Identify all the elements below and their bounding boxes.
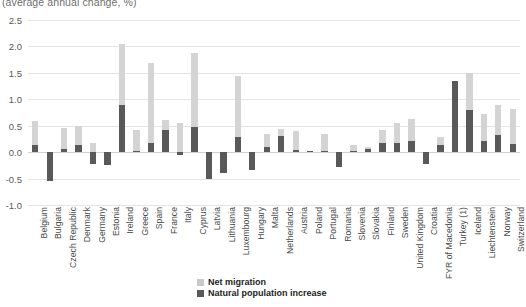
x-axis-tick-label: Ireland	[125, 207, 135, 234]
bar-group	[220, 20, 226, 205]
bar-group	[249, 20, 255, 205]
bar-segment-net-migration	[321, 134, 327, 151]
bar-group	[423, 20, 429, 205]
bar-segment-natural-increase	[61, 149, 67, 152]
x-axis-tick-label: Czech Republic	[68, 207, 78, 268]
legend-item-net-migration: Net migration	[197, 277, 327, 288]
bar-segment-natural-increase	[148, 143, 154, 152]
bar-segment-net-migration	[264, 134, 270, 147]
bar-segment-net-migration	[350, 145, 356, 151]
bar-group	[47, 20, 53, 205]
bar-group	[61, 20, 67, 205]
x-axis-tick-label: United Kingdom	[415, 207, 425, 269]
y-axis-tick-label: -1.0	[0, 200, 22, 211]
bar-segment-net-migration	[394, 123, 400, 143]
x-axis-tick-label: Switzerland	[516, 207, 526, 252]
bar-segment-natural-increase	[495, 135, 501, 152]
bar-segment-natural-increase	[336, 152, 342, 167]
plot-area: 2.52.01.51.00.50.0-0.5-1.0	[28, 20, 520, 205]
x-axis-tick-label: Italy	[183, 207, 193, 223]
legend-item-natural-increase: Natural population increase	[197, 288, 327, 299]
bar-group	[394, 20, 400, 205]
bar-group	[264, 20, 270, 205]
y-axis-tick-label: 0.0	[0, 147, 22, 158]
bar-segment-net-migration	[379, 130, 385, 143]
x-axis-tick-label: Sweden	[400, 207, 410, 238]
bar-group	[350, 20, 356, 205]
x-axis-tick-label: Spain	[154, 207, 164, 229]
bar-segment-natural-increase	[408, 141, 414, 152]
bar-group	[206, 20, 212, 205]
bar-segment-net-migration	[32, 121, 38, 145]
bar-group	[408, 20, 414, 205]
bar-group	[365, 20, 371, 205]
gridline	[28, 126, 520, 127]
x-axis-tick-label: Liechtenstein	[487, 207, 497, 258]
x-axis-tick-label: Iceland	[473, 207, 483, 235]
y-axis-tick-label: 1.5	[0, 67, 22, 78]
bar-segment-natural-increase	[481, 141, 487, 153]
x-axis-tick-label: Belgium	[39, 207, 49, 238]
x-axis-tick-label: Portugal	[328, 207, 338, 239]
bar-segment-natural-increase	[510, 144, 516, 152]
bar-group	[75, 20, 81, 205]
gridline	[28, 179, 520, 180]
legend-label-net-migration: Net migration	[208, 277, 266, 288]
x-axis-tick-label: Luxembourg	[241, 207, 251, 255]
y-axis-tick-label: 1.0	[0, 94, 22, 105]
legend-swatch-icon-natural-increase	[197, 290, 204, 297]
bar-segment-natural-increase	[365, 149, 371, 152]
x-axis-tick-label: Germany	[97, 207, 107, 243]
bar-segment-net-migration	[235, 76, 241, 138]
gridline	[28, 20, 520, 21]
bar-segment-natural-increase	[394, 143, 400, 153]
bar-group	[293, 20, 299, 205]
bar-segment-natural-increase	[423, 152, 429, 164]
bar-segment-natural-increase	[466, 110, 472, 152]
x-axis-tick-label: Denmark	[82, 207, 92, 242]
bar-segment-net-migration	[75, 126, 81, 146]
bar-segment-net-migration	[510, 109, 516, 144]
x-axis-tick-label: Poland	[314, 207, 324, 234]
y-axis-tick-label: -0.5	[0, 173, 22, 184]
bar-segment-natural-increase	[191, 127, 197, 152]
y-axis-tick-label: 0.5	[0, 120, 22, 131]
x-axis-tick-label: FYR of Macedonia	[444, 207, 454, 279]
bar-group	[148, 20, 154, 205]
bar-group	[162, 20, 168, 205]
bar-segment-net-migration	[437, 137, 443, 145]
bar-segment-natural-increase	[437, 145, 443, 152]
bar-group	[510, 20, 516, 205]
bar-segment-natural-increase	[133, 151, 139, 152]
x-axis-tick-label: Greece	[140, 207, 150, 235]
bar-segment-natural-increase	[249, 152, 255, 170]
bar-segment-natural-increase	[104, 152, 110, 165]
bar-group	[321, 20, 327, 205]
gridline	[28, 99, 520, 100]
bar-segment-net-migration	[481, 114, 487, 140]
bar-group	[177, 20, 183, 205]
x-axis-tick-label: Austria	[299, 207, 309, 234]
y-axis-tick-label: 2.0	[0, 41, 22, 52]
legend-label-natural-increase: Natural population increase	[208, 288, 327, 299]
bar-segment-net-migration	[162, 120, 168, 130]
bar-group	[191, 20, 197, 205]
gridline	[28, 73, 520, 74]
bar-group	[235, 20, 241, 205]
x-axis-tick-label: Croatia	[429, 207, 439, 235]
bar-segment-net-migration	[133, 130, 139, 151]
bar-segment-natural-increase	[350, 151, 356, 152]
bar-segment-natural-increase	[162, 130, 168, 152]
bar-group	[495, 20, 501, 205]
bar-segment-natural-increase	[452, 81, 458, 152]
x-axis-tick-label: Lithuania	[227, 207, 237, 242]
bar-group	[104, 20, 110, 205]
bar-segment-net-migration	[408, 119, 414, 141]
x-axis-tick-label: Turkey (1)	[458, 207, 468, 246]
gridline	[28, 46, 520, 47]
gridline	[28, 152, 520, 153]
bar-segment-natural-increase	[90, 152, 96, 164]
bar-segment-natural-increase	[321, 151, 327, 152]
bar-segment-net-migration	[119, 44, 125, 105]
